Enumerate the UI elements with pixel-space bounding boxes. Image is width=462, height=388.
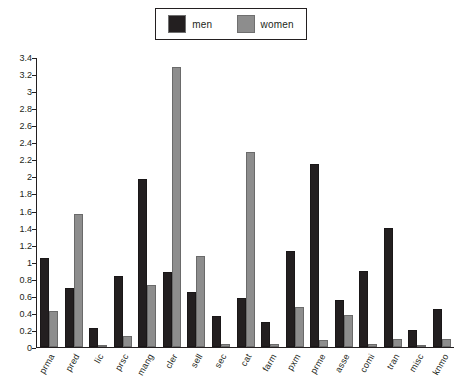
y-axis-tick-label: 0.6 — [2, 292, 32, 301]
x-axis-label-slot: cat — [233, 350, 258, 388]
bar-group — [233, 58, 258, 347]
y-axis-tick-label: 1 — [2, 258, 32, 267]
y-axis-tick-label: 3.2 — [2, 71, 32, 80]
legend-entry-women: women — [237, 15, 294, 33]
bar-group — [356, 58, 381, 347]
y-axis-tick-label: 0.2 — [2, 326, 32, 335]
x-axis-label-slot: sell — [184, 350, 209, 388]
x-axis-label-slot: prma — [36, 350, 61, 388]
bar-women-pxm[interactable] — [295, 307, 304, 347]
bar-men-knmo[interactable] — [433, 309, 442, 347]
x-axis-label-slot: lic — [85, 350, 110, 388]
bar-group — [209, 58, 234, 347]
bar-group — [62, 58, 87, 347]
x-axis-label-comi: comi — [358, 352, 377, 374]
legend-label-men: men — [192, 19, 212, 30]
y-axis-tick-mark — [32, 229, 36, 230]
bar-groups — [37, 58, 454, 347]
bar-men-cler[interactable] — [163, 272, 172, 347]
bar-women-prma[interactable] — [49, 311, 58, 347]
bar-men-comi[interactable] — [359, 271, 368, 348]
bar-women-tran[interactable] — [393, 339, 402, 348]
bar-group — [430, 58, 455, 347]
y-axis-tick-mark — [32, 331, 36, 332]
bar-men-prsc[interactable] — [114, 276, 123, 347]
bar-group — [307, 58, 332, 347]
y-axis-tick-mark — [32, 58, 36, 59]
bar-women-comi[interactable] — [368, 344, 377, 347]
x-axis-label-slot: cler — [159, 350, 184, 388]
x-axis-label-pxm: pxm — [285, 352, 302, 372]
chart-plot-area: 00.20.40.60.811.21.41.61.822.22.42.62.83… — [36, 58, 454, 348]
bar-women-sec[interactable] — [221, 344, 230, 347]
x-axis-labels: prmapredlicprscmangclersellseccatfarmpxm… — [36, 350, 454, 388]
bar-group — [86, 58, 111, 347]
bar-women-prme[interactable] — [319, 340, 328, 347]
x-axis-label-slot: comi — [356, 350, 381, 388]
y-axis-tick-label: 0.8 — [2, 275, 32, 284]
x-axis-label-sec: sec — [213, 352, 229, 370]
y-axis-tick-mark — [32, 314, 36, 315]
bar-women-cat[interactable] — [246, 152, 255, 348]
y-axis-tick-mark — [32, 212, 36, 213]
bar-men-tran[interactable] — [384, 228, 393, 347]
y-axis-tick-mark — [32, 263, 36, 264]
x-axis-label-slot: tran — [380, 350, 405, 388]
bar-men-sell[interactable] — [187, 292, 196, 347]
bar-men-prme[interactable] — [310, 164, 319, 347]
y-axis-tick-mark — [32, 160, 36, 161]
bar-women-sell[interactable] — [196, 256, 205, 347]
bar-women-misc[interactable] — [417, 345, 426, 347]
x-axis-label-lic: lic — [93, 352, 106, 365]
y-axis-tick-label: 3.4 — [2, 54, 32, 63]
legend-swatch-women — [237, 15, 255, 33]
bar-group — [282, 58, 307, 347]
x-axis-label-slot: prme — [307, 350, 332, 388]
x-axis-label-slot: prsc — [110, 350, 135, 388]
bar-men-asse[interactable] — [335, 300, 344, 347]
bar-men-prma[interactable] — [40, 258, 49, 347]
bar-women-pred[interactable] — [74, 214, 83, 347]
bar-women-mang[interactable] — [147, 285, 156, 347]
x-axis-label-misc: misc — [408, 352, 426, 374]
x-axis-label-mang: mang — [135, 352, 155, 377]
y-axis-tick-mark — [32, 348, 36, 349]
y-axis-tick-mark — [32, 297, 36, 298]
bar-women-knmo[interactable] — [442, 339, 451, 348]
y-axis-tick-mark — [32, 109, 36, 110]
bar-men-cat[interactable] — [237, 298, 246, 347]
bar-group — [380, 58, 405, 347]
bar-group — [160, 58, 185, 347]
x-axis-label-slot: pxm — [282, 350, 307, 388]
bar-women-asse[interactable] — [344, 315, 353, 347]
y-axis-tick-label: 1.6 — [2, 207, 32, 216]
bar-men-sec[interactable] — [212, 316, 221, 347]
bar-women-lic[interactable] — [98, 345, 107, 347]
y-axis-tick-mark — [32, 280, 36, 281]
x-axis-label-slot: pred — [61, 350, 86, 388]
x-axis-label-farm: farm — [260, 352, 278, 373]
x-axis-label-slot: misc — [405, 350, 430, 388]
bar-women-cler[interactable] — [172, 67, 181, 348]
legend-swatch-men — [168, 15, 186, 33]
bar-men-farm[interactable] — [261, 322, 270, 348]
bar-women-farm[interactable] — [270, 344, 279, 347]
x-axis-label-knmo: knmo — [430, 352, 450, 377]
x-axis-label-cat: cat — [239, 352, 254, 368]
y-axis-tick-label: 1.4 — [2, 224, 32, 233]
x-axis-label-pred: pred — [63, 352, 81, 373]
bar-men-lic[interactable] — [89, 328, 98, 347]
x-axis-label-slot: asse — [331, 350, 356, 388]
y-axis-tick-label: 2 — [2, 173, 32, 182]
bar-group — [331, 58, 356, 347]
x-axis-label-asse: asse — [334, 352, 353, 374]
y-axis-tick-mark — [32, 126, 36, 127]
y-axis-tick-mark — [32, 75, 36, 76]
bar-men-mang[interactable] — [138, 179, 147, 347]
bar-men-pred[interactable] — [65, 288, 74, 348]
bar-women-prsc[interactable] — [123, 336, 132, 347]
bar-men-misc[interactable] — [408, 330, 417, 347]
bar-men-pxm[interactable] — [286, 251, 295, 347]
x-axis-label-slot: sec — [208, 350, 233, 388]
y-axis-tick-label: 2.4 — [2, 139, 32, 148]
